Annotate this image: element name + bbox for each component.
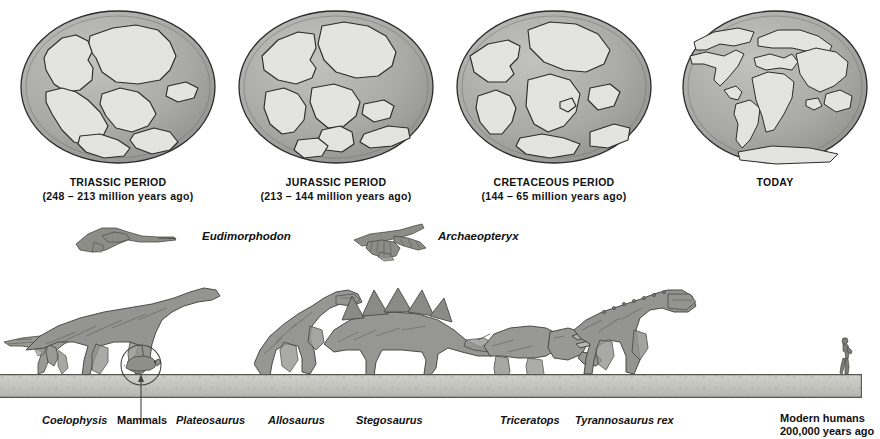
period-label-today: TODAY xyxy=(680,176,870,190)
period-subtitle: (248 – 213 million years ago) xyxy=(18,190,218,204)
evolution-timeline-figure: TRIASSIC PERIOD (248 – 213 million years… xyxy=(0,0,880,439)
creature-label-archaeopteryx: Archaeopteryx xyxy=(438,230,519,242)
period-title: TODAY xyxy=(680,176,870,190)
creature-label-triceratops: Triceratops xyxy=(500,414,560,426)
creature-stegosaurus xyxy=(318,288,498,384)
globe-triassic xyxy=(18,8,218,166)
pterosaur-icon xyxy=(72,222,182,258)
period-label-jurassic: JURASSIC PERIOD (213 – 144 million years… xyxy=(236,176,436,203)
globe-icon xyxy=(18,8,218,166)
creature-label-tyrannosaurus: Tyrannosaurus rex xyxy=(575,414,674,426)
human-label-line1: Modern humans xyxy=(780,412,874,425)
period-title: TRIASSIC PERIOD xyxy=(18,176,218,190)
period-subtitle: (144 – 65 million years ago) xyxy=(454,190,654,204)
creature-label-stegosaurus: Stegosaurus xyxy=(356,414,423,426)
human-figure-icon xyxy=(834,337,856,377)
globe-icon xyxy=(454,8,654,166)
globe-icon xyxy=(680,8,870,166)
period-title: JURASSIC PERIOD xyxy=(236,176,436,190)
human-label: Modern humans 200,000 years ago xyxy=(780,412,874,438)
period-subtitle: (213 – 144 million years ago) xyxy=(236,190,436,204)
globe-today xyxy=(680,8,870,166)
creature-label-plateosaurus: Plateosaurus xyxy=(176,414,245,426)
stegosaurus-icon xyxy=(318,288,498,380)
period-label-triassic: TRIASSIC PERIOD (248 – 213 million years… xyxy=(18,176,218,203)
globe-icon xyxy=(236,8,436,166)
creature-label-mammals: Mammals xyxy=(117,414,167,426)
creature-label-eudimorphodon: Eudimorphodon xyxy=(202,230,291,242)
archaeopteryx-icon xyxy=(350,222,430,262)
period-title: CRETACEOUS PERIOD xyxy=(454,176,654,190)
creature-eudimorphodon xyxy=(72,222,182,262)
tyrannosaurus-icon xyxy=(574,282,714,382)
creature-label-allosaurus: Allosaurus xyxy=(268,414,325,426)
creature-tyrannosaurus xyxy=(574,282,714,386)
creature-label-coelophysis: Coelophysis xyxy=(42,414,107,426)
globe-cretaceous xyxy=(454,8,654,166)
creature-archaeopteryx xyxy=(350,222,430,266)
globe-jurassic xyxy=(236,8,436,166)
period-label-cretaceous: CRETACEOUS PERIOD (144 – 65 million year… xyxy=(454,176,654,203)
human-label-line2: 200,000 years ago xyxy=(780,425,874,438)
